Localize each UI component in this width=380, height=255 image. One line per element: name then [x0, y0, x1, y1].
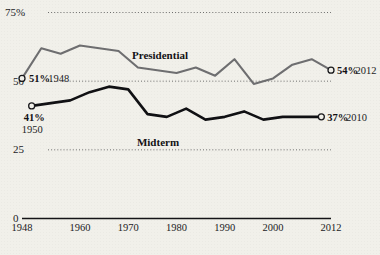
series-label-midterm: Midterm	[137, 136, 179, 148]
series-label-presidential: Presidential	[132, 49, 188, 61]
x-tick-label-2000: 2000	[263, 222, 284, 233]
marker-pres-start	[19, 75, 25, 81]
x-tick-label-1980: 1980	[166, 222, 187, 233]
x-axis-tick-labels: 1948196019701980199020002012	[12, 222, 342, 233]
annotation-pres-start-value: 51%	[29, 73, 50, 84]
marker-mid-start	[29, 103, 35, 109]
annotation-mid-end-year: 2010	[346, 112, 367, 123]
voter-turnout-line-chart: 75%50250 1948196019701980199020002012 51…	[0, 0, 380, 255]
gridlines	[48, 13, 331, 150]
marker-pres-end	[328, 67, 334, 73]
series-line-midterm	[32, 87, 322, 120]
endpoint-annotations: 51%194854%201241%195037%2010	[22, 65, 377, 135]
marker-mid-end	[318, 114, 324, 120]
x-tick-label-1960: 1960	[69, 222, 90, 233]
x-tick-label-1948: 1948	[12, 222, 33, 233]
series-inline-labels: PresidentialMidterm	[132, 49, 188, 148]
x-tick-label-1990: 1990	[214, 222, 235, 233]
annotation-mid-start-year: 1950	[22, 124, 43, 135]
annotation-pres-start-year: 1948	[48, 73, 69, 84]
y-tick-label-75: 75%	[5, 6, 25, 18]
y-tick-label-25: 25	[13, 143, 25, 155]
x-tick-label-1970: 1970	[118, 222, 139, 233]
x-tick-label-2012: 2012	[321, 222, 342, 233]
y-axis-tick-labels: 75%50250	[5, 6, 25, 224]
chart-canvas: 75%50250 1948196019701980199020002012 51…	[0, 0, 380, 255]
annotation-mid-start-value: 41%	[24, 112, 45, 123]
annotation-pres-end-year: 2012	[356, 65, 377, 76]
